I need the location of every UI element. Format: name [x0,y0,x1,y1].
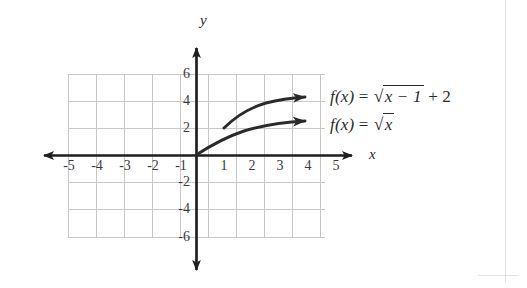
y-tick-label-6: 6 [172,66,190,82]
page-bottom-mark [478,275,518,276]
y-axis-label: y [200,12,207,29]
page-edge-line [505,0,506,283]
y-tick-label-4: 4 [172,93,190,109]
curve1-radical: √x − 1 [373,85,424,107]
curve-sqrt-x [196,121,305,155]
curve2-equals: = [359,115,369,134]
x-tick-label-1: 1 [214,158,234,174]
x-tick-label-3: 3 [270,158,290,174]
x-tick-label-5: 5 [326,158,346,174]
x-tick-label--3: -3 [114,158,136,174]
x-tick-label--1: -1 [170,158,192,174]
curve1-fx: f(x) [330,87,354,106]
y-tick-label--6: -6 [168,229,190,245]
curve1-equals: = [359,87,369,106]
x-tick-label--4: -4 [86,158,108,174]
curve-label-sqrt-x-minus-1-plus-2: f(x) = √x − 1 + 2 [330,85,451,107]
y-tick-label--4: -4 [168,201,190,217]
x-axis-label: x [369,146,376,163]
curve2-fx: f(x) [330,115,354,134]
curve2-radical: √x [373,113,394,135]
y-tick-label-2: 2 [172,120,190,136]
x-tick-label-2: 2 [242,158,262,174]
x-tick-label--2: -2 [142,158,164,174]
coordinate-plane [0,0,527,288]
y-tick-label--2: -2 [168,174,190,190]
curve1-tail: + 2 [428,87,451,106]
curve-label-sqrt-x: f(x) = √x [330,113,394,135]
curve2-radicand: x [383,113,395,135]
x-tick-label--5: -5 [58,158,80,174]
curve1-radicand: x − 1 [383,85,424,107]
x-tick-label-4: 4 [298,158,318,174]
graph-figure: y x -5 -4 -3 -2 -1 1 2 3 4 5 6 4 2 -2 -4… [0,0,527,288]
